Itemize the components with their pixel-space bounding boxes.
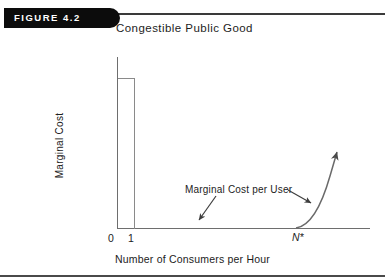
congestion-curve [296,152,337,228]
figure-container: FIGURE 4.2 Congestible Public Good Margi… [0,0,385,280]
footer-rule [0,275,385,277]
annotation-arrow-right [288,190,311,203]
annotation-arrow-left [199,196,216,220]
curve-layer [0,0,385,280]
